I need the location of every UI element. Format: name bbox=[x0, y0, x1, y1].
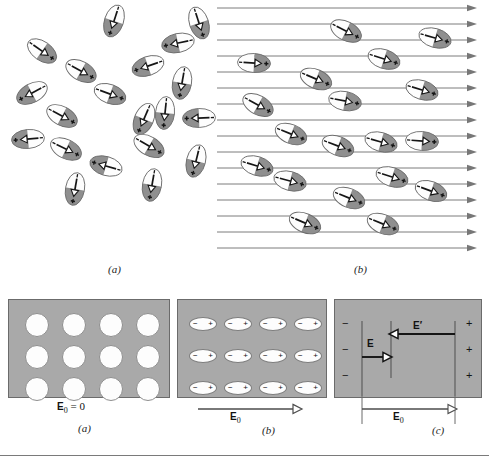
atom-unpolarized-2 bbox=[99, 313, 123, 337]
slab-with-fields: −−−+++ bbox=[334, 299, 482, 398]
slab-unpolarized bbox=[8, 299, 170, 398]
field-symbol-E0-c: E0 bbox=[393, 411, 404, 422]
dipole-12 bbox=[181, 107, 215, 128]
bottom-rule bbox=[0, 455, 489, 456]
atom-unpolarized-9 bbox=[62, 377, 86, 401]
atom-polarized-0: −+ bbox=[189, 317, 217, 331]
caption-bottom-b: (b) bbox=[262, 424, 275, 436]
dipole-4 bbox=[63, 60, 97, 81]
label-induced-field-Eprime: E′ bbox=[413, 319, 422, 331]
dipole-6 bbox=[164, 72, 198, 93]
atom-positive-sign: + bbox=[313, 384, 318, 392]
field-label-bottom-a: E0 = 0 bbox=[57, 400, 85, 415]
dipole-5 bbox=[404, 79, 438, 100]
atom-negative-sign: − bbox=[263, 320, 268, 328]
atom-positive-sign: + bbox=[243, 352, 248, 360]
atom-polarized-4: −+ bbox=[189, 349, 217, 363]
dipole-2 bbox=[366, 48, 400, 69]
dipole-0 bbox=[328, 20, 362, 41]
caption-top-a: (a) bbox=[108, 263, 121, 275]
atom-unpolarized-10 bbox=[99, 377, 123, 401]
Eprime-symbol: E′ bbox=[413, 320, 422, 331]
panel-a-random-dipoles bbox=[0, 0, 215, 258]
atom-positive-sign: + bbox=[313, 320, 318, 328]
E-symbol: E bbox=[367, 338, 374, 349]
atom-negative-sign: − bbox=[298, 320, 303, 328]
atom-polarized-1: −+ bbox=[224, 317, 252, 331]
atom-polarized-10: −+ bbox=[259, 381, 287, 395]
dipole-14 bbox=[374, 166, 408, 187]
atom-positive-sign: + bbox=[278, 352, 283, 360]
atom-unpolarized-7 bbox=[136, 345, 160, 369]
dipole-8 bbox=[92, 83, 126, 104]
caption-bottom-c: (c) bbox=[432, 424, 444, 436]
dipole-13 bbox=[10, 128, 44, 149]
field-value-a: = 0 bbox=[68, 400, 85, 412]
atom-positive-sign: + bbox=[243, 320, 248, 328]
atom-positive-sign: + bbox=[243, 384, 248, 392]
field-symbol-E0-a: E0 bbox=[57, 401, 68, 412]
atom-negative-sign: − bbox=[228, 320, 233, 328]
dipole-3 bbox=[236, 52, 270, 73]
surface-charge-negative-1: − bbox=[342, 344, 348, 355]
caption-top-b: (b) bbox=[354, 263, 367, 275]
surface-charge-positive-1: + bbox=[466, 344, 472, 355]
dipole-16 bbox=[178, 150, 212, 171]
dipole-18 bbox=[57, 178, 91, 199]
atom-unpolarized-1 bbox=[62, 313, 86, 337]
figure-dielectric-polarization: (a) (b) E0 = 0 (a) −+−+−+−+−+−+−+−+−+−+−… bbox=[0, 0, 489, 462]
panel-b-aligned-dipoles bbox=[215, 0, 489, 258]
atom-polarized-3: −+ bbox=[294, 317, 322, 331]
dipole-13 bbox=[272, 170, 306, 191]
dipole-4 bbox=[298, 68, 332, 89]
surface-charge-negative-2: − bbox=[342, 370, 348, 381]
dipole-15 bbox=[331, 187, 365, 208]
dipole-7 bbox=[14, 82, 48, 103]
field-label-bottom-b: E0 bbox=[230, 410, 241, 425]
dipole-6 bbox=[327, 90, 361, 111]
atom-negative-sign: − bbox=[193, 352, 198, 360]
atom-polarized-11: −+ bbox=[294, 381, 322, 395]
dipole-17 bbox=[287, 212, 321, 233]
atom-negative-sign: − bbox=[228, 384, 233, 392]
atom-polarized-9: −+ bbox=[224, 381, 252, 395]
atom-unpolarized-3 bbox=[136, 313, 160, 337]
atom-unpolarized-6 bbox=[99, 345, 123, 369]
atom-polarized-7: −+ bbox=[294, 349, 322, 363]
dipole-9 bbox=[44, 105, 78, 126]
dipole-8 bbox=[273, 123, 307, 144]
dipole-10 bbox=[363, 131, 397, 152]
dipole-2 bbox=[160, 32, 194, 53]
field-symbol-E0-b: E0 bbox=[230, 411, 241, 422]
dipole-7 bbox=[240, 94, 274, 115]
atom-positive-sign: + bbox=[278, 320, 283, 328]
atom-negative-sign: − bbox=[263, 352, 268, 360]
atom-unpolarized-4 bbox=[25, 345, 49, 369]
atom-unpolarized-11 bbox=[136, 377, 160, 401]
dipole-5 bbox=[130, 55, 164, 76]
dipole-19 bbox=[134, 174, 168, 195]
dipole-14 bbox=[48, 138, 82, 159]
atom-positive-sign: + bbox=[278, 384, 283, 392]
atom-negative-sign: − bbox=[228, 352, 233, 360]
atom-polarized-8: −+ bbox=[189, 381, 217, 395]
atom-negative-sign: − bbox=[263, 384, 268, 392]
surface-charge-positive-0: + bbox=[466, 318, 472, 329]
dipole-0 bbox=[96, 10, 130, 31]
atom-polarized-2: −+ bbox=[259, 317, 287, 331]
surface-charge-positive-2: + bbox=[466, 370, 472, 381]
dipole-18 bbox=[365, 213, 399, 234]
dipole-3 bbox=[181, 12, 215, 33]
dipole-15 bbox=[131, 135, 165, 156]
atom-positive-sign: + bbox=[208, 320, 213, 328]
atom-polarized-6: −+ bbox=[259, 349, 287, 363]
slab-polarized: −+−+−+−+−+−+−+−+−+−+−+−+ bbox=[177, 299, 327, 398]
surface-charge-negative-0: − bbox=[342, 318, 348, 329]
field-label-bottom-c: E0 bbox=[393, 410, 404, 425]
label-internal-field-E: E bbox=[367, 337, 374, 349]
atom-positive-sign: + bbox=[208, 384, 213, 392]
atom-polarized-5: −+ bbox=[224, 349, 252, 363]
dipole-16 bbox=[413, 180, 447, 201]
atom-positive-sign: + bbox=[208, 352, 213, 360]
caption-bottom-a: (a) bbox=[78, 422, 91, 434]
